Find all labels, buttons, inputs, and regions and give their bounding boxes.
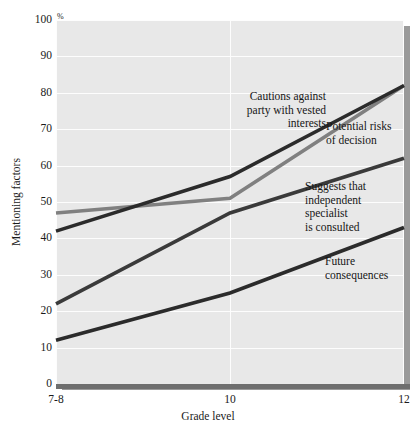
y-axis-tick-labels: 0102030405060708090100 [0, 0, 52, 432]
x-tick-label: 10 [224, 393, 236, 405]
y-tick-label: 20 [0, 305, 52, 317]
y-tick-label: 90 [0, 50, 52, 62]
y-tick-label: 10 [0, 342, 52, 354]
y-tick-label: 70 [0, 123, 52, 135]
series-label-future-consequences: Future consequences [325, 255, 416, 282]
y-tick-label: 60 [0, 160, 52, 172]
percent-unit-label: % [57, 12, 64, 21]
y-tick-label: 40 [0, 232, 52, 244]
y-tick-label: 30 [0, 269, 52, 281]
y-tick-label: 0 [0, 378, 52, 390]
x-tick-label: 7-8 [48, 393, 63, 405]
series-label-suggests-specialist: Suggests that independent specialist is … [305, 180, 409, 234]
y-tick-label: 100 [0, 14, 52, 26]
y-tick-label: 50 [0, 196, 52, 208]
line-chart: 0102030405060708090100 % 7-81012 Grade l… [0, 0, 416, 432]
x-axis-title: Grade level [0, 410, 416, 422]
x-tick-label: 12 [398, 393, 410, 405]
y-tick-label: 80 [0, 87, 52, 99]
series-label-cautions-against-party: Cautions against party with vested inter… [196, 90, 326, 131]
x-axis-line [56, 384, 410, 389]
y-axis-title: Mentioning factors [10, 122, 22, 282]
series-label-potential-risks: Potential risks of decision [326, 120, 414, 147]
series-line-3 [56, 227, 404, 340]
